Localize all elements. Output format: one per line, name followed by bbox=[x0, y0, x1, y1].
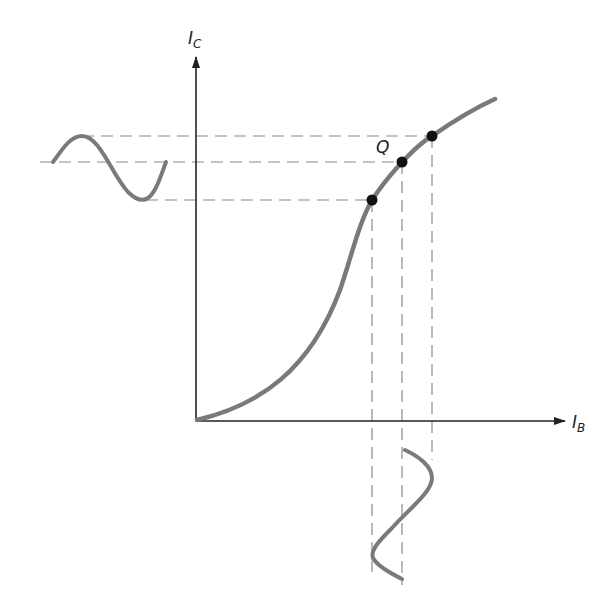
transfer-curve-diagram bbox=[0, 0, 613, 612]
transfer-curve bbox=[197, 99, 495, 420]
axes bbox=[196, 57, 565, 421]
point-lower bbox=[367, 195, 378, 206]
q-point bbox=[397, 157, 408, 168]
y-axis-label: IC bbox=[188, 28, 201, 51]
x-axis-label: IB bbox=[572, 412, 585, 435]
output-waveform bbox=[53, 136, 166, 200]
y-axis-subscript: C bbox=[193, 37, 201, 51]
x-axis-subscript: B bbox=[577, 421, 585, 435]
q-point-label: Q bbox=[376, 137, 389, 157]
point-upper bbox=[427, 131, 438, 142]
